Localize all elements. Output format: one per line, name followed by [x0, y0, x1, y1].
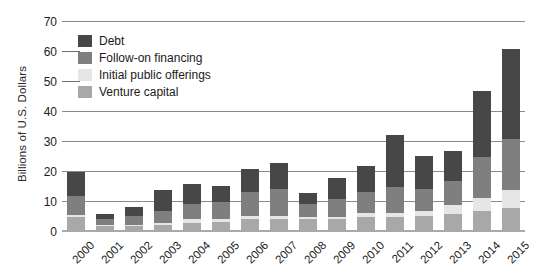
bar-segment-2015-initial-public-offerings — [502, 190, 520, 208]
bar-segment-2007-venture-capital — [270, 219, 288, 233]
bar-segment-2009-debt — [328, 178, 346, 199]
bar-segment-2011-debt — [386, 135, 404, 188]
bar-segment-2014-venture-capital — [473, 211, 491, 232]
y-tick-label-20: 20 — [13, 165, 57, 179]
bar-segment-2004-debt — [183, 184, 201, 204]
bar-segment-2005-venture-capital — [212, 222, 230, 233]
bar-2013 — [444, 151, 462, 232]
y-tick-label-50: 50 — [13, 75, 57, 89]
y-tick-label-60: 60 — [13, 45, 57, 59]
bar-segment-2002-debt — [125, 207, 143, 216]
bar-2008 — [299, 193, 317, 232]
bar-segment-2003-venture-capital — [154, 225, 172, 233]
bar-2000 — [67, 172, 85, 232]
bar-2015 — [502, 49, 520, 232]
bar-2003 — [154, 190, 172, 232]
bar-segment-2014-follow-on-financing — [473, 157, 491, 198]
bar-segment-2006-debt — [241, 169, 259, 192]
bar-2010 — [357, 166, 375, 232]
bar-segment-2002-venture-capital — [125, 226, 143, 232]
bar-2006 — [241, 169, 259, 232]
bar-segment-2007-debt — [270, 163, 288, 189]
legend-item-follow-on-financing: Follow-on financing — [78, 50, 213, 66]
legend-label: Follow-on financing — [99, 51, 204, 65]
bar-segment-2008-venture-capital — [299, 219, 317, 233]
bar-segment-2011-venture-capital — [386, 217, 404, 232]
bar-2014 — [473, 91, 491, 232]
bar-segment-2008-follow-on-financing — [299, 204, 317, 218]
bar-segment-2008-debt — [299, 193, 317, 204]
bar-2002 — [125, 207, 143, 232]
bar-segment-2003-debt — [154, 190, 172, 211]
chart-legend: DebtFollow-on financingInitial public of… — [78, 33, 213, 101]
y-tick-label-0: 0 — [13, 225, 57, 239]
legend-label: Debt — [99, 34, 126, 48]
bar-2004 — [183, 184, 201, 232]
bar-segment-2005-follow-on-financing — [212, 202, 230, 219]
bar-segment-2004-follow-on-financing — [183, 204, 201, 219]
bar-segment-2012-follow-on-financing — [415, 189, 433, 212]
y-tick-label-10: 10 — [13, 195, 57, 209]
bar-segment-2000-debt — [67, 172, 85, 196]
bar-2005 — [212, 186, 230, 233]
y-tick-label-70: 70 — [13, 15, 57, 29]
bar-segment-2005-debt — [212, 186, 230, 203]
bar-2011 — [386, 135, 404, 233]
bar-segment-2013-debt — [444, 151, 462, 181]
legend-item-initial-public-offerings: Initial public offerings — [78, 67, 213, 83]
bar-segment-2010-debt — [357, 166, 375, 192]
bar-segment-2012-debt — [415, 156, 433, 189]
bar-segment-2000-follow-on-financing — [67, 196, 85, 215]
bar-segment-2009-follow-on-financing — [328, 199, 346, 217]
y-tick-label-40: 40 — [13, 105, 57, 119]
bar-2012 — [415, 156, 433, 233]
bar-segment-2003-follow-on-financing — [154, 211, 172, 223]
bar-segment-2002-follow-on-financing — [125, 216, 143, 226]
bar-segment-2012-venture-capital — [415, 216, 433, 233]
bar-2007 — [270, 163, 288, 232]
bar-segment-2000-venture-capital — [67, 217, 85, 232]
bar-segment-2009-venture-capital — [328, 219, 346, 233]
legend-swatch-icon — [78, 35, 92, 47]
bar-2009 — [328, 178, 346, 232]
bar-segment-2010-follow-on-financing — [357, 192, 375, 213]
bar-segment-2004-venture-capital — [183, 223, 201, 232]
bar-segment-2007-follow-on-financing — [270, 189, 288, 216]
bar-segment-2015-follow-on-financing — [502, 139, 520, 190]
bar-segment-2001-venture-capital — [96, 226, 114, 232]
legend-label: Initial public offerings — [99, 68, 213, 82]
bar-segment-2015-debt — [502, 49, 520, 139]
stacked-bar-chart: Billions of U.S. Dollars 010203040506070… — [0, 0, 533, 276]
legend-item-debt: Debt — [78, 33, 213, 49]
bar-segment-2015-venture-capital — [502, 208, 520, 232]
bar-segment-2011-follow-on-financing — [386, 187, 404, 213]
bar-segment-2014-initial-public-offerings — [473, 198, 491, 212]
legend-item-venture-capital: Venture capital — [78, 84, 213, 100]
y-tick-label-30: 30 — [13, 135, 57, 149]
legend-label: Venture capital — [99, 85, 180, 99]
bar-2001 — [96, 214, 114, 232]
bar-segment-2006-venture-capital — [241, 219, 259, 233]
bar-segment-2013-follow-on-financing — [444, 181, 462, 205]
legend-swatch-icon — [78, 86, 92, 98]
bar-segment-2014-debt — [473, 91, 491, 157]
bar-segment-2013-initial-public-offerings — [444, 205, 462, 214]
bar-segment-2006-follow-on-financing — [241, 192, 259, 216]
bar-segment-2010-venture-capital — [357, 217, 375, 232]
bar-segment-2013-venture-capital — [444, 214, 462, 232]
legend-swatch-icon — [78, 69, 92, 81]
legend-swatch-icon — [78, 52, 92, 64]
